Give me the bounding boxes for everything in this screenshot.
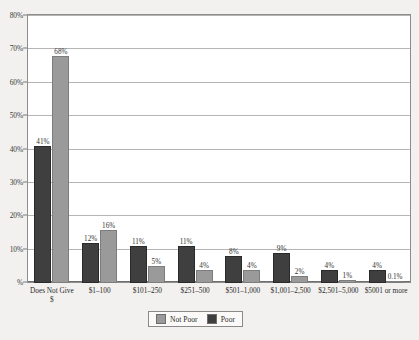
bar[interactable]: 4% [196, 270, 213, 283]
bar-group: 8%4% [219, 15, 267, 283]
bar[interactable]: 8% [225, 256, 242, 283]
bar-group: 41%68% [28, 15, 76, 283]
bar-value-label: 12% [84, 235, 97, 244]
y-axis-tick-label: 80% [10, 11, 23, 20]
bar-slot: 4% [243, 15, 260, 283]
bar-value-label: 0.1% [388, 273, 403, 282]
bar-group: 11%5% [124, 15, 172, 283]
bar-slot: 11% [178, 15, 195, 283]
legend-item[interactable]: Poor [207, 314, 235, 324]
bar-slot: 8% [225, 15, 242, 283]
bar-value-label: 4% [199, 262, 209, 271]
bar[interactable]: 68% [52, 56, 69, 283]
x-axis-category-label: $251–500 [171, 286, 219, 305]
bar-groups: 41%68%12%16%11%5%11%4%8%4%9%2%4%1%4%0.1% [28, 15, 410, 283]
y-axis-tick-label: 70% [10, 44, 23, 53]
bar[interactable]: 4% [369, 270, 386, 283]
x-axis-category-label: Does Not Give $ [28, 286, 76, 305]
bar[interactable]: 41% [34, 146, 51, 283]
bar-slot: 16% [100, 15, 117, 283]
bar-slot: 11% [130, 15, 147, 283]
bar-value-label: 68% [54, 48, 67, 57]
bar-group: 4%1% [315, 15, 363, 283]
bar-value-label: 8% [229, 248, 239, 257]
x-axis-category-label: $501–1,000 [219, 286, 267, 305]
y-axis-tick-label: 50% [10, 111, 23, 120]
bar-group: 4%0.1% [362, 15, 410, 283]
bar-value-label: 1% [343, 272, 353, 281]
legend-swatch-icon [156, 314, 166, 324]
bar-value-label: 4% [325, 262, 335, 271]
bar-slot: 5% [148, 15, 165, 283]
bar-value-label: 5% [152, 258, 162, 267]
bar-slot: 4% [321, 15, 338, 283]
bar-value-label: 41% [36, 138, 49, 147]
bar-slot: 2% [291, 15, 308, 283]
legend-swatch-icon [207, 314, 217, 324]
bar-value-label: 9% [277, 245, 287, 254]
bar[interactable]: 9% [273, 253, 290, 283]
bar-slot: 9% [273, 15, 290, 283]
bar-value-label: 4% [372, 262, 382, 271]
bar[interactable]: 5% [148, 266, 165, 283]
bar[interactable]: 11% [178, 246, 195, 283]
y-axis-tick-label: 60% [10, 77, 23, 86]
y-axis-tick-label: 40% [10, 144, 23, 153]
bar[interactable]: 4% [321, 270, 338, 283]
x-axis-category-label: $1,001–2,500 [267, 286, 315, 305]
x-axis-category-label: $101–250 [124, 286, 172, 305]
bar[interactable]: 11% [130, 246, 147, 283]
y-axis-tick-label: 20% [10, 211, 23, 220]
legend-label: Not Poor [170, 315, 198, 324]
x-axis-categories: Does Not Give $$1–100$101–250$251–500$50… [28, 286, 410, 305]
bar[interactable]: 4% [243, 270, 260, 283]
y-axis: %10%20%30%40%50%60%70%80% [0, 14, 27, 283]
x-axis-category-label: $2,501–5,000 [315, 286, 363, 305]
bar-group: 11%4% [171, 15, 219, 283]
bar-value-label: 2% [295, 268, 305, 277]
bar-group: 12%16% [76, 15, 124, 283]
bar-slot: 12% [82, 15, 99, 283]
bar-chart: %10%20%30%40%50%60%70%80% 41%68%12%16%11… [0, 0, 419, 340]
bar[interactable]: 1% [339, 280, 356, 283]
y-axis-tick-label: 10% [10, 244, 23, 253]
bar-slot: 68% [52, 15, 69, 283]
bar[interactable]: 0.1% [387, 281, 404, 283]
y-axis-tick-label: 30% [10, 177, 23, 186]
bar-slot: 41% [34, 15, 51, 283]
bar-slot: 4% [369, 15, 386, 283]
bar-slot: 4% [196, 15, 213, 283]
x-axis-category-label: $5001 or more [362, 286, 410, 305]
x-axis-category-label: $1–100 [76, 286, 124, 305]
chart-legend: Not PoorPoor [148, 311, 243, 327]
bar-value-label: 11% [180, 238, 193, 247]
bar-group: 9%2% [267, 15, 315, 283]
bar-value-label: 11% [132, 238, 145, 247]
bar-value-label: 16% [102, 222, 115, 231]
legend-item[interactable]: Not Poor [156, 314, 198, 324]
bar[interactable]: 16% [100, 230, 117, 283]
bar-value-label: 4% [247, 262, 257, 271]
bar[interactable]: 2% [291, 276, 308, 283]
bar-slot: 1% [339, 15, 356, 283]
bar-slot: 0.1% [387, 15, 404, 283]
legend-label: Poor [221, 315, 235, 324]
bar[interactable]: 12% [82, 243, 99, 283]
